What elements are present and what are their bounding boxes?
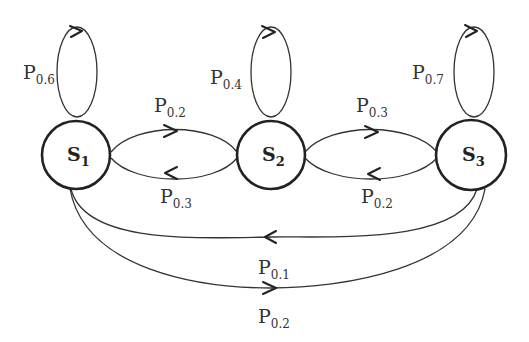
label-s3-s2: P0.2 [361,185,393,211]
state-s3: S3 [436,120,506,190]
label-s1-s2: P0.2 [154,94,186,120]
label-s1-s3: P0.2 [258,305,290,331]
label-s1-s1: P0.6 [23,61,55,87]
self-loop-s3 [454,25,494,117]
label-s3-s1: P0.1 [258,256,290,282]
state-s1: S1 [42,121,110,189]
edge-s1-s2 [111,125,237,152]
markov-diagram: S1 S2 S3 P0.6 P0.4 P0.7 P0.2 P0.3 P0.3 P… [0,0,529,342]
edge-s3-s2 [305,158,437,180]
label-s2-s2: P0.4 [210,66,242,92]
label-s2-s3: P0.3 [356,94,388,120]
self-loop-s1 [57,26,97,117]
label-s2-s1: P0.3 [160,185,192,211]
edge-s2-s3 [305,126,437,152]
state-s2: S2 [237,121,305,189]
self-loop-s2 [251,26,291,117]
edge-s2-s1 [111,158,237,179]
label-s3-s3: P0.7 [412,61,444,87]
edge-s3-s1 [71,189,477,243]
